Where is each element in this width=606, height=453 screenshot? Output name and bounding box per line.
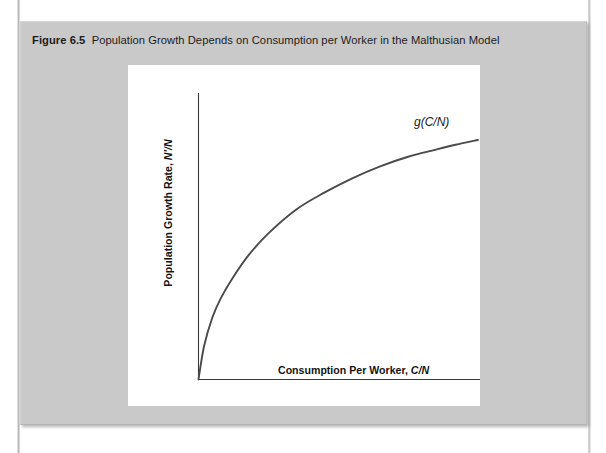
y-axis-label: Population Growth Rate, N′/N	[162, 113, 174, 313]
page-root: Figure 6.5 Population Growth Depends on …	[0, 0, 606, 453]
y-axis-label-math: N′/N	[162, 139, 174, 160]
figure-caption: Figure 6.5 Population Growth Depends on …	[32, 33, 577, 48]
figure-number: Figure 6.5	[32, 34, 85, 46]
plot-panel: Population Growth Rate, N′/N Consumption…	[128, 65, 480, 406]
figure-caption-text: Population Growth Depends on Consumption…	[92, 34, 500, 46]
x-axis-label: Consumption Per Worker, C/N	[278, 364, 488, 376]
x-axis-label-math: C/N	[411, 364, 429, 376]
x-axis-label-text: Consumption Per Worker,	[278, 364, 408, 376]
y-axis-label-text: Population Growth Rate,	[162, 163, 174, 287]
figure-container: Figure 6.5 Population Growth Depends on …	[20, 21, 587, 425]
page-gutter-right	[588, 0, 591, 453]
curve-annotation-label: g(C/N)	[414, 115, 449, 129]
growth-curve	[199, 140, 479, 380]
